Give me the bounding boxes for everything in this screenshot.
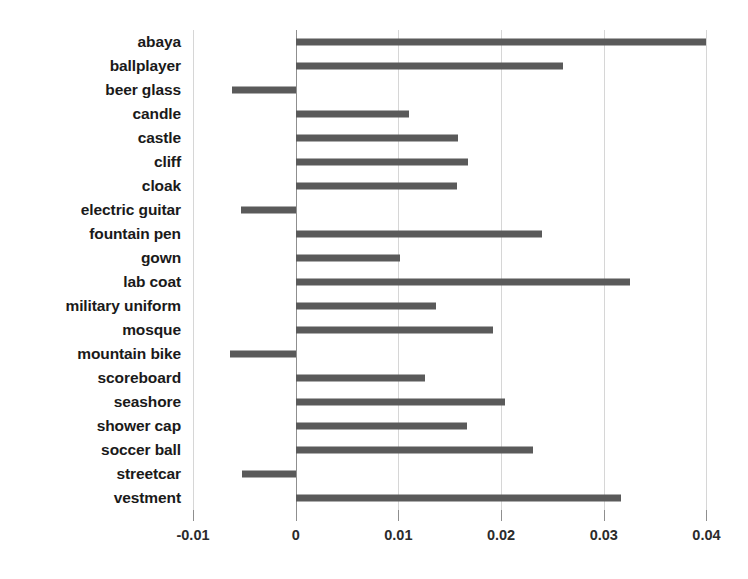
y-axis-label: cloak bbox=[0, 174, 190, 198]
y-axis-label: scoreboard bbox=[0, 366, 190, 390]
x-tick-mark bbox=[398, 510, 399, 521]
bar-row bbox=[193, 294, 727, 318]
bar-row bbox=[193, 318, 727, 342]
y-axis-label: vestment bbox=[0, 486, 190, 510]
y-axis-label: abaya bbox=[0, 30, 190, 54]
bar bbox=[296, 423, 467, 430]
bar-row bbox=[193, 414, 727, 438]
bar bbox=[296, 135, 458, 142]
bar bbox=[296, 39, 707, 46]
y-axis-label: shower cap bbox=[0, 414, 190, 438]
y-axis-label: lab coat bbox=[0, 270, 190, 294]
x-tick-mark bbox=[193, 510, 194, 521]
bar-row bbox=[193, 78, 727, 102]
bar-row bbox=[193, 366, 727, 390]
bar bbox=[296, 63, 563, 70]
bar bbox=[296, 375, 425, 382]
x-tick-mark bbox=[706, 510, 707, 521]
bar bbox=[296, 231, 542, 238]
x-tick-label: 0.02 bbox=[487, 527, 515, 543]
bar-row bbox=[193, 102, 727, 126]
bar-row bbox=[193, 222, 727, 246]
bar-row bbox=[193, 174, 727, 198]
bar-row bbox=[193, 486, 727, 510]
y-axis-label: soccer ball bbox=[0, 438, 190, 462]
bar bbox=[230, 351, 296, 358]
bar bbox=[296, 447, 533, 454]
x-tick-label: 0 bbox=[292, 527, 300, 543]
bar-row bbox=[193, 390, 727, 414]
bar bbox=[242, 471, 295, 478]
y-axis-label: candle bbox=[0, 102, 190, 126]
bar-row bbox=[193, 54, 727, 78]
x-tick-label: 0.03 bbox=[590, 527, 618, 543]
y-axis-label: castle bbox=[0, 126, 190, 150]
y-axis-label: beer glass bbox=[0, 78, 190, 102]
x-tick-label: 0.04 bbox=[692, 527, 720, 543]
bar bbox=[296, 279, 631, 286]
bar-row bbox=[193, 342, 727, 366]
y-axis-label: streetcar bbox=[0, 462, 190, 486]
bar-row bbox=[193, 246, 727, 270]
bar bbox=[296, 111, 409, 118]
y-axis-label: fountain pen bbox=[0, 222, 190, 246]
bar-row bbox=[193, 30, 727, 54]
bar bbox=[296, 183, 457, 190]
y-axis-label: mosque bbox=[0, 318, 190, 342]
bar-row bbox=[193, 462, 727, 486]
x-tick-label: 0.01 bbox=[384, 527, 412, 543]
bar bbox=[296, 159, 469, 166]
x-tick-mark bbox=[296, 510, 297, 521]
y-axis-label: mountain bike bbox=[0, 342, 190, 366]
plot-area bbox=[193, 30, 727, 510]
bar bbox=[296, 495, 622, 502]
bar-row bbox=[193, 198, 727, 222]
y-axis-category-labels: abayaballplayerbeer glasscandlecastlecli… bbox=[0, 30, 190, 510]
y-axis-label: ballplayer bbox=[0, 54, 190, 78]
x-tick-mark bbox=[604, 510, 605, 521]
bar bbox=[296, 303, 437, 310]
bar bbox=[241, 207, 295, 214]
y-axis-label: gown bbox=[0, 246, 190, 270]
x-tick-mark bbox=[501, 510, 502, 521]
bar-row bbox=[193, 270, 727, 294]
bar bbox=[232, 87, 296, 94]
bar-row bbox=[193, 126, 727, 150]
bar bbox=[296, 255, 401, 262]
horizontal-bar-chart: abayaballplayerbeer glasscandlecastlecli… bbox=[0, 0, 748, 579]
y-axis-label: military uniform bbox=[0, 294, 190, 318]
y-axis-label: seashore bbox=[0, 390, 190, 414]
bar-series bbox=[193, 30, 727, 510]
y-axis-label: cliff bbox=[0, 150, 190, 174]
bar bbox=[296, 399, 505, 406]
bar-row bbox=[193, 438, 727, 462]
x-tick-label: -0.01 bbox=[176, 527, 209, 543]
bar bbox=[296, 327, 493, 334]
y-axis-label: electric guitar bbox=[0, 198, 190, 222]
x-axis: -0.0100.010.020.030.04 bbox=[193, 510, 727, 560]
bar-row bbox=[193, 150, 727, 174]
